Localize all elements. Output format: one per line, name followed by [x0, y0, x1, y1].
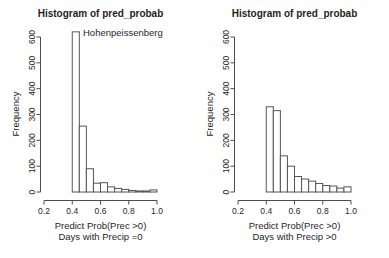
histogram-bar [266, 107, 273, 192]
y-tick-label: 0 [27, 189, 37, 194]
histogram-bar [122, 189, 129, 192]
x-axis-title-line2: Days with Precip >0 [194, 231, 389, 242]
histogram-bar [330, 186, 337, 192]
x-tick-label: 0.2 [232, 206, 244, 216]
x-axis-title-line2: Days with Precip =0 [0, 231, 195, 242]
histogram-bar [323, 186, 330, 192]
y-tick-label: 300 [27, 107, 37, 121]
histogram-bar [86, 169, 93, 192]
histogram-bar [337, 188, 344, 192]
x-axis-title-line1: Predict Prob(Prec >0) [194, 220, 389, 231]
y-tick-label: 400 [221, 81, 231, 95]
histogram-bar [150, 190, 157, 192]
y-tick-label: 100 [27, 159, 37, 173]
histogram-bar [302, 179, 309, 192]
histogram-panel-precip-gt-0: 0.20.40.60.81.00100200300400500600 Histo… [194, 0, 389, 258]
histogram-panel-precip-eq-0: 0.20.40.60.81.00100200300400500600 Histo… [0, 0, 195, 258]
histogram-bar [143, 191, 150, 192]
y-axis-title: Frequency [10, 92, 21, 137]
y-tick-label: 300 [221, 107, 231, 121]
y-axis-title: Frequency [204, 92, 215, 137]
figure-canvas: 0.20.40.60.81.00100200300400500600 Histo… [0, 0, 389, 258]
x-tick-label: 0.6 [95, 206, 107, 216]
histogram-bar [309, 181, 316, 192]
histogram-bar [136, 191, 143, 192]
y-tick-label: 500 [221, 55, 231, 69]
x-tick-label: 0.8 [317, 206, 329, 216]
histogram-bar [115, 188, 122, 192]
y-tick-label: 100 [221, 159, 231, 173]
chart-title: Histogram of pred_probab [0, 8, 195, 19]
histogram-bar [93, 183, 100, 192]
histogram-bar [72, 32, 79, 192]
histogram-bar [280, 156, 287, 192]
x-tick-label: 0.2 [38, 206, 50, 216]
histogram-bar [108, 187, 115, 192]
x-tick-label: 1.0 [151, 206, 163, 216]
histogram-bar [295, 177, 302, 193]
y-tick-label: 200 [27, 133, 37, 147]
histogram-bar [273, 111, 280, 192]
station-annotation: Hohenpeissenberg [83, 27, 163, 38]
y-tick-label: 200 [221, 133, 231, 147]
x-tick-label: 0.4 [260, 206, 272, 216]
x-tick-label: 0.4 [66, 206, 78, 216]
histogram-bar [287, 166, 294, 192]
y-tick-label: 0 [221, 189, 231, 194]
histogram-bar [129, 190, 136, 192]
chart-title: Histogram of pred_probab [194, 8, 389, 19]
y-tick-label: 500 [27, 55, 37, 69]
histogram-bar [316, 183, 323, 192]
y-tick-label: 600 [27, 30, 37, 44]
x-tick-label: 0.6 [289, 206, 301, 216]
x-axis-title-line1: Predict Prob(Prec >0) [0, 220, 195, 231]
x-tick-label: 0.8 [123, 206, 135, 216]
y-tick-label: 600 [221, 30, 231, 44]
y-tick-label: 400 [27, 81, 37, 95]
x-tick-label: 1.0 [345, 206, 357, 216]
histogram-bar [101, 183, 108, 192]
histogram-bar [344, 187, 351, 192]
histogram-bar [79, 126, 86, 192]
